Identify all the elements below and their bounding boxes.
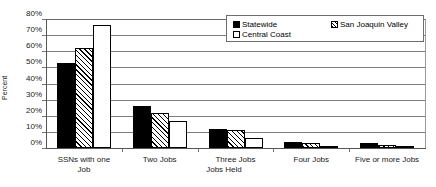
bar-san-joaquin-valley xyxy=(378,145,396,148)
y-axis-tick-labels: 0%10%20%30%40%50%60%70%80% xyxy=(14,14,44,154)
bar-central-coast xyxy=(320,146,338,148)
bar-central-coast xyxy=(93,25,111,148)
legend-swatch-statewide xyxy=(233,21,240,28)
x-axis-category-label: SSNs with oneJob xyxy=(46,155,122,175)
bar-central-coast xyxy=(245,138,263,148)
x-axis-category-label-line1: Two Jobs xyxy=(143,155,177,164)
x-axis-category-label-line1: SSNs with one xyxy=(58,155,110,164)
y-axis-tick-label: 0% xyxy=(14,139,42,147)
y-axis-tick-label: 60% xyxy=(14,42,42,50)
bar-statewide xyxy=(284,142,302,148)
bar-central-coast xyxy=(396,146,414,148)
bar-central-coast xyxy=(169,121,187,148)
legend-label-statewide: Statewide xyxy=(242,20,277,29)
bar-san-joaquin-valley xyxy=(151,113,169,148)
y-axis-tick-label: 30% xyxy=(14,91,42,99)
bar-statewide xyxy=(360,143,378,148)
x-axis-category-label: Five or more Jobs xyxy=(349,155,425,165)
legend-label-san-joaquin-valley: San Joaquin Valley xyxy=(340,20,408,29)
legend-swatch-central-coast xyxy=(233,31,240,38)
legend-entry-central-coast: Central Coast xyxy=(233,30,291,39)
y-axis-tick-label: 50% xyxy=(14,58,42,66)
x-axis-category-label: Three Jobs xyxy=(198,155,274,165)
x-axis-category-label-line1: Three Jobs xyxy=(215,155,255,164)
bar-statewide xyxy=(57,63,75,148)
y-axis-tick-label: 10% xyxy=(14,123,42,131)
bar-san-joaquin-valley xyxy=(302,143,320,148)
y-axis-tick-label: 40% xyxy=(14,75,42,83)
x-axis-category-label: Four Jobs xyxy=(273,155,349,165)
bar-statewide xyxy=(209,129,227,148)
y-axis-tick-label: 20% xyxy=(14,107,42,115)
x-axis-category-label-line1: Four Jobs xyxy=(294,155,330,164)
bar-san-joaquin-valley xyxy=(75,48,93,148)
legend-entry-san-joaquin-valley: San Joaquin Valley xyxy=(331,20,408,29)
y-axis-tick-label: 70% xyxy=(14,26,42,34)
chart-legend: Statewide Central Coast San Joaquin Vall… xyxy=(226,15,424,42)
legend-label-central-coast: Central Coast xyxy=(242,30,291,39)
x-axis-category-label: Two Jobs xyxy=(122,155,198,165)
x-axis-title: Jobs Held xyxy=(186,165,262,175)
x-axis-category-label-line2: Job xyxy=(46,165,122,175)
legend-swatch-san-joaquin-valley xyxy=(331,21,338,28)
legend-entry-statewide: Statewide xyxy=(233,20,277,29)
y-axis-title: Percent xyxy=(0,58,14,118)
bar-chart: Percent 0%10%20%30%40%50%60%70%80% SSNs … xyxy=(0,0,436,187)
y-axis-tick-label: 80% xyxy=(14,10,42,18)
bar-san-joaquin-valley xyxy=(227,130,245,148)
bar-statewide xyxy=(133,106,151,148)
x-axis-category-label-line1: Five or more Jobs xyxy=(355,155,419,164)
